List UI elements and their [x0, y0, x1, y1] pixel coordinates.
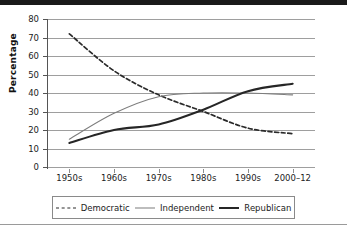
dashed-line-icon [56, 204, 76, 212]
legend-item-democratic[interactable]: Democratic [56, 203, 130, 213]
footer-divider [0, 224, 347, 225]
y-axis-label: Percentage [8, 33, 18, 93]
y-tick-label-40: 40 [13, 89, 39, 97]
y-tick-label-0: 0 [13, 163, 39, 171]
y-tick-label-60: 60 [13, 52, 39, 60]
x-tick-label-5: 2000–12 [265, 174, 321, 183]
thick-line-icon [219, 204, 239, 212]
y-tick-label-30: 30 [13, 108, 39, 116]
y-tick-label-10: 10 [13, 145, 39, 153]
legend-item-independent[interactable]: Independent [135, 203, 214, 213]
y-tick-label-50: 50 [13, 71, 39, 79]
legend-label-independent: Independent [160, 203, 214, 213]
legend-label-democratic: Democratic [81, 203, 130, 213]
legend-label-republican: Republican [244, 203, 291, 213]
y-tick-label-80: 80 [13, 15, 39, 23]
thin-line-icon [135, 204, 155, 212]
y-tick-label-20: 20 [13, 126, 39, 134]
series-lines [47, 19, 315, 169]
series-line-republican [69, 84, 292, 143]
chart-legend: Democratic Independent Republican [52, 196, 295, 219]
line-chart: Percentage 01020304050607080 1950s1960s1… [0, 5, 347, 224]
chart-figure: Percentage 01020304050607080 1950s1960s1… [0, 0, 347, 236]
legend-item-republican[interactable]: Republican [219, 203, 291, 213]
y-tick-label-70: 70 [13, 34, 39, 42]
